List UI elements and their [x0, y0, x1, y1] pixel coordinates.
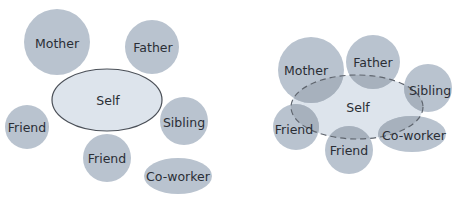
left-panel-independent-self: Mother Father Self Friend Sibling Friend…: [5, 9, 212, 194]
friend-bottom-label: Friend: [88, 151, 126, 166]
self-label: Self: [346, 100, 370, 115]
father-label: Father: [353, 55, 393, 70]
self-label: Self: [96, 93, 120, 108]
friend-left-label: Friend: [275, 122, 313, 137]
mother-label: Mother: [284, 63, 329, 78]
coworker-label: Co-worker: [146, 169, 211, 184]
coworker-label: Co-worker: [382, 128, 447, 143]
mother-label: Mother: [35, 36, 80, 51]
sibling-label: Sibling: [163, 115, 205, 130]
friend-left-label: Friend: [8, 120, 46, 135]
self-concept-diagram: Mother Father Self Friend Sibling Friend…: [0, 0, 452, 208]
right-panel-interdependent-self: Mother Father Sibling Self Friend Friend…: [273, 35, 452, 174]
sibling-label: Sibling: [409, 83, 451, 98]
father-label: Father: [133, 40, 173, 55]
friend-bottom-label: Friend: [330, 143, 368, 158]
